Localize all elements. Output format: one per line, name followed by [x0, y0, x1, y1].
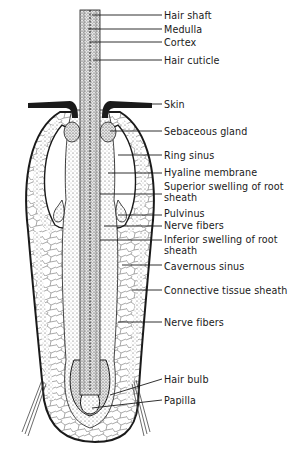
label-hair-shaft: Hair shaft [164, 10, 212, 21]
label-nerve-fibers-upper: Nerve fibers [164, 220, 224, 231]
label-hair-cuticle: Hair cuticle [164, 55, 220, 66]
label-skin: Skin [164, 99, 185, 110]
label-pulvinus: Pulvinus [164, 208, 205, 219]
label-cavernous-sinus: Cavernous sinus [164, 261, 244, 272]
label-sebaceous-gland: Sebaceous gland [164, 126, 247, 137]
label-connective-tissue-sheath: Connective tissue sheath [164, 285, 288, 296]
label-hyaline-membrane: Hyaline membrane [164, 167, 257, 178]
label-inferior-swelling: Inferior swelling of root sheath [164, 234, 289, 256]
sebaceous-gland-left [64, 122, 80, 142]
label-ring-sinus: Ring sinus [164, 150, 214, 161]
label-nerve-fibers-lower: Nerve fibers [164, 317, 224, 328]
hair-follicle-diagram [0, 0, 289, 449]
label-superior-swelling: Superior swelling of root sheath [164, 181, 289, 203]
label-hair-bulb: Hair bulb [164, 374, 209, 385]
sebaceous-gland-right [100, 122, 116, 142]
label-papilla: Papilla [164, 395, 196, 406]
label-medulla: Medulla [164, 24, 202, 35]
label-cortex: Cortex [164, 37, 196, 48]
